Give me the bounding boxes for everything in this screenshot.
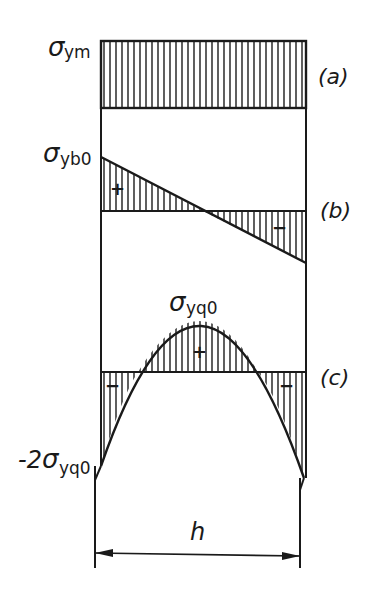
- label-sigma-yb0-symbol: σ: [43, 138, 61, 168]
- label-neg2-prefix: -2: [18, 446, 42, 474]
- label-neg2-symbol: σ: [42, 444, 60, 474]
- label-case-a: (a): [318, 64, 349, 89]
- width-dimension: [95, 549, 300, 560]
- stress-diagram: σ ym σ yb0 σ yq0 -2 σ yq0 (a) (b) (c) + …: [0, 0, 374, 597]
- arrow-right-icon: [282, 552, 300, 560]
- arrow-left-icon: [95, 549, 113, 557]
- plus-sign-b: +: [110, 178, 125, 199]
- label-sigma-ym-sub: ym: [64, 42, 91, 62]
- label-neg2-sub: yq0: [59, 458, 91, 478]
- minus-sign-c-left: −: [105, 375, 120, 396]
- label-case-b: (b): [320, 198, 351, 223]
- plus-sign-c: +: [192, 341, 207, 362]
- label-case-c: (c): [320, 365, 349, 390]
- case-b-linear-stress: [101, 157, 306, 263]
- minus-sign-c-right: −: [279, 375, 294, 396]
- label-width-h: h: [190, 518, 205, 546]
- minus-sign-b: −: [272, 217, 287, 238]
- label-sigma-yb0-sub: yb0: [60, 149, 92, 169]
- label-sigma-yq0-sub: yq0: [186, 298, 218, 318]
- case-a-uniform-stress: [101, 41, 306, 108]
- label-sigma-yq0-symbol: σ: [169, 287, 187, 317]
